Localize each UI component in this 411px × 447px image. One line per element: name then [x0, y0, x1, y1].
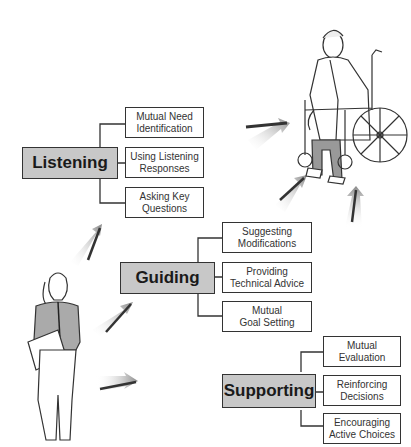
arrow-to-guiding [92, 302, 133, 336]
listening-item-using-listening-responses: Using Listening Responses [125, 147, 204, 178]
patient-in-wheelchair-illustration [298, 30, 407, 184]
supporting-item-mutual-evaluation: Mutual Evaluation [323, 336, 401, 367]
arrow-to-supporting [96, 372, 138, 392]
arrow-to-patient-left [246, 118, 290, 150]
listening-box: Listening [22, 147, 118, 179]
arrow-to-patient-middle [275, 175, 307, 212]
supporting-item-encouraging-active-choices: Encouraging Active Choices [323, 413, 401, 444]
arrow-to-patient-right [345, 186, 364, 228]
guiding-item-providing-technical-advice: Providing Technical Advice [222, 262, 312, 293]
listening-item-mutual-need-identification: Mutual Need Identification [125, 107, 204, 138]
arrow-to-listening [70, 224, 102, 266]
guiding-item-mutual-goal-setting: Mutual Goal Setting [222, 301, 312, 332]
supporting-box: Supporting [222, 374, 316, 408]
guiding-item-suggesting-modifications: Suggesting Modifications [222, 222, 312, 253]
listening-item-asking-key-questions: Asking Key Questions [125, 187, 204, 218]
supporting-item-reinforcing-decisions: Reinforcing Decisions [323, 375, 401, 406]
healthcare-worker-illustration [28, 273, 80, 440]
guiding-box: Guiding [120, 262, 215, 294]
